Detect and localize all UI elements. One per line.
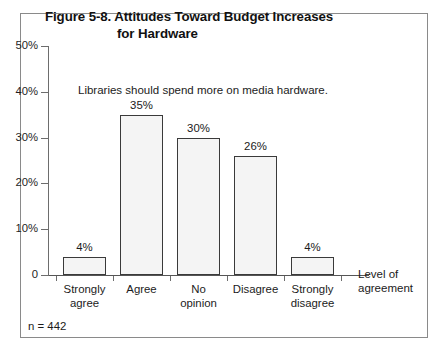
- x-axis-category-label: Stronglyagree: [52, 283, 117, 310]
- category-label-line-1: Strongly: [64, 283, 106, 295]
- bar-value-label: 35%: [120, 99, 163, 111]
- y-axis-labels: 010%20%30%40%50%: [0, 0, 38, 300]
- category-label-line-2: agree: [70, 297, 99, 309]
- y-axis-tick: [41, 138, 49, 139]
- category-label-line-2: disagree: [291, 297, 335, 309]
- bar-strongly-agree: [63, 257, 106, 275]
- x-axis-tick: [56, 276, 57, 281]
- y-axis-tick: [41, 92, 49, 93]
- x-axis-category-label: Agree: [109, 283, 174, 297]
- bar-value-label: 26%: [234, 140, 277, 152]
- y-axis-tick-label: 10%: [15, 222, 38, 234]
- category-label-line-1: No: [191, 283, 206, 295]
- y-axis-tick-label: 40%: [15, 85, 38, 97]
- x-axis-category-label: Disagree: [223, 283, 288, 297]
- y-axis-tick-label: 20%: [15, 176, 38, 188]
- category-label-line-1: Disagree: [233, 283, 279, 295]
- x-axis-tick: [284, 276, 285, 281]
- page-title: Figure 5-8. Attitudes Toward Budget Incr…: [45, 8, 390, 42]
- title-line-1-text: Figure 5-8. Attitudes Toward Budget Incr…: [45, 9, 333, 24]
- sample-size-note: n = 442: [28, 320, 66, 332]
- x-axis-tick: [113, 276, 114, 281]
- category-label-line-1: Strongly: [292, 283, 334, 295]
- bar-value-label: 4%: [291, 241, 334, 253]
- bar-value-label: 30%: [177, 122, 220, 134]
- x-axis-title-line-2: agreement: [358, 282, 413, 294]
- x-axis-category-label: Stronglydisagree: [280, 283, 345, 310]
- y-axis-tick-label: 30%: [15, 131, 38, 143]
- chart-annotation: Libraries should spend more on media har…: [78, 84, 328, 96]
- bar-no-opinion: [177, 138, 220, 275]
- y-axis-tick: [41, 275, 49, 276]
- y-axis-tick-label: 0: [32, 268, 38, 280]
- x-axis-tick: [341, 276, 342, 281]
- y-axis-tick-label: 50%: [15, 39, 38, 51]
- bar-value-label: 4%: [63, 241, 106, 253]
- title-line-2-text: for Hardware: [45, 25, 390, 42]
- x-axis-tick: [170, 276, 171, 281]
- category-label-line-2: opinion: [180, 297, 217, 309]
- x-axis-tick: [227, 276, 228, 281]
- bar-agree: [120, 115, 163, 275]
- bar-strongly-disagree: [291, 257, 334, 275]
- y-axis-tick: [41, 183, 49, 184]
- bar-disagree: [234, 156, 277, 275]
- x-axis-title: Level of agreement: [358, 268, 413, 295]
- category-label-line-1: Agree: [126, 283, 156, 295]
- x-axis-title-line-1: Level of: [358, 268, 398, 280]
- y-axis-tick: [41, 229, 49, 230]
- x-axis-category-label: Noopinion: [166, 283, 231, 310]
- y-axis-tick: [41, 46, 49, 47]
